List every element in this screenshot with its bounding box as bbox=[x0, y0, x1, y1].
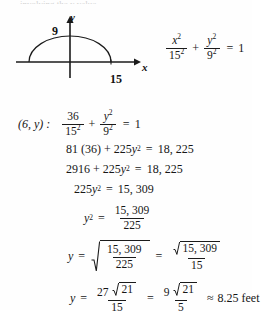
equation-divided-form: y2 = 15, 309 225 bbox=[84, 205, 154, 231]
radical-sign-icon-3 bbox=[112, 282, 119, 296]
eq3-rhs: 18, 225 bbox=[158, 143, 194, 155]
fraction-x-over-15sq: x2 152 bbox=[166, 35, 187, 61]
eq8-num2-coef: 9 bbox=[164, 286, 170, 298]
x-intercept-label: 15 bbox=[110, 72, 122, 87]
eq8-den1: 15 bbox=[111, 301, 123, 313]
eq7-rad-den: 225 bbox=[116, 258, 133, 270]
equation-cleared-denominators: 81 (36) + 225y2 = 18, 225 bbox=[66, 143, 194, 155]
eq4-lhs-a: 2916 bbox=[66, 163, 90, 175]
fraction-15309-over-225-under-root: 15, 309 225 bbox=[104, 244, 145, 270]
radical-sign-icon bbox=[91, 240, 100, 272]
eq2-equals: = bbox=[123, 118, 130, 130]
eq6-equals: = bbox=[98, 212, 105, 224]
eq7-equals-2: = bbox=[156, 250, 163, 262]
eq3-plus: + bbox=[104, 143, 111, 155]
eq1-den1-exp: 2 bbox=[181, 47, 185, 56]
eq8-equals: = bbox=[80, 292, 87, 304]
eq5-coef: 225 bbox=[74, 183, 92, 195]
eq1-den2-exp: 2 bbox=[213, 47, 217, 56]
eq7-radicand-1: 15, 309 225 bbox=[100, 240, 150, 272]
eq8-num1-radicand: 21 bbox=[121, 284, 133, 296]
eq2-den2-exp: 2 bbox=[109, 123, 113, 132]
eq1-num1-exp: 2 bbox=[177, 32, 181, 41]
fraction-36-over-15sq: 36 152 bbox=[62, 111, 83, 137]
eq7-var: y bbox=[68, 250, 73, 262]
eq8-den2: 5 bbox=[178, 301, 184, 313]
equation-square-root-step: y = 15, 309 225 = 15, 309 bbox=[68, 240, 226, 272]
eq6-den: 225 bbox=[123, 219, 140, 231]
equation-multiplied-out: 2916 + 225y2 = 18, 225 bbox=[66, 163, 183, 175]
cut-off-text-remnant: involving the y value bbox=[20, 0, 132, 4]
sqrt-fraction-15309-over-225: 15, 309 225 bbox=[91, 240, 150, 272]
eq5-rhs: 15, 309 bbox=[118, 183, 154, 195]
x-axis-label: x bbox=[142, 61, 148, 73]
eq7-equals: = bbox=[78, 250, 85, 262]
semi-ellipse-figure: y x 9 15 bbox=[0, 6, 152, 90]
eq7-rad-num: 15, 309 bbox=[107, 243, 142, 255]
eq3-coef: 225 bbox=[114, 143, 132, 155]
eq3-lhs-a: 81 (36) bbox=[66, 143, 101, 155]
sqrt-21-second: 21 bbox=[173, 282, 197, 296]
eq4-coef: 225 bbox=[103, 163, 121, 175]
fraction-27sqrt21-over-15: 27 21 15 bbox=[94, 282, 140, 313]
eq8-unit: feet bbox=[241, 292, 259, 304]
eq5-equals: = bbox=[106, 183, 113, 195]
eq2-num1: 36 bbox=[67, 110, 79, 122]
fraction-15309-over-225: 15, 309 225 bbox=[112, 205, 153, 231]
eq1-plus: + bbox=[192, 42, 199, 54]
eq8-approx-sign: ≈ bbox=[207, 292, 214, 304]
eq1-den1: 15 bbox=[169, 49, 181, 61]
eq4-plus: + bbox=[93, 163, 100, 175]
eq4-rhs: 18, 225 bbox=[147, 163, 183, 175]
eq2-den1: 15 bbox=[65, 125, 77, 137]
radical-sign-icon-4 bbox=[173, 282, 180, 296]
fraction-sqrt15309-over-15: 15, 309 15 bbox=[169, 241, 224, 272]
eq2-prefix: (6, y) : bbox=[18, 118, 50, 130]
eq2-den1-exp: 2 bbox=[77, 123, 81, 132]
figure-svg bbox=[0, 6, 152, 90]
fraction-ysq-over-9sq: y2 92 bbox=[100, 111, 116, 137]
eq6-num: 15, 309 bbox=[115, 204, 150, 216]
sqrt-15309: 15, 309 bbox=[173, 241, 220, 255]
eq8-equals-2: = bbox=[147, 292, 154, 304]
radical-sign-icon-2 bbox=[173, 241, 180, 255]
eq1-num2-exp: 2 bbox=[212, 32, 216, 41]
eq8-num2-radicand: 21 bbox=[182, 284, 194, 296]
eq2-num2-exp: 2 bbox=[109, 108, 113, 117]
sqrt-21-first: 21 bbox=[112, 282, 136, 296]
eq7-num2-radicand: 15, 309 bbox=[182, 243, 217, 255]
eq8-num1-coef: 27 bbox=[97, 286, 109, 298]
equation-substitution: (6, y) : 36 152 + y2 92 = 1 bbox=[18, 111, 141, 137]
eq1-rhs: 1 bbox=[238, 42, 244, 54]
equation-simplified-answer: y = 27 21 15 = 9 bbox=[70, 282, 259, 313]
eq7-den2: 15 bbox=[191, 259, 203, 271]
eq8-value: 8.25 bbox=[217, 292, 238, 304]
x-axis-arrowhead bbox=[134, 58, 141, 65]
fraction-9sqrt21-over-5: 9 21 5 bbox=[161, 282, 201, 313]
eq2-rhs: 1 bbox=[135, 118, 141, 130]
fraction-y-over-9sq: y2 92 bbox=[204, 35, 220, 61]
y-intercept-label: 9 bbox=[52, 24, 58, 39]
y-axis-label: y bbox=[70, 11, 75, 23]
eq1-equals: = bbox=[227, 42, 234, 54]
eq8-var: y bbox=[70, 292, 75, 304]
eq4-equals: = bbox=[135, 163, 142, 175]
equation-ellipse: x2 152 + y2 92 = 1 bbox=[164, 35, 244, 61]
eq3-equals: = bbox=[146, 143, 153, 155]
eq2-plus: + bbox=[89, 118, 96, 130]
equation-isolated-term: 225y2 = 15, 309 bbox=[74, 183, 154, 195]
